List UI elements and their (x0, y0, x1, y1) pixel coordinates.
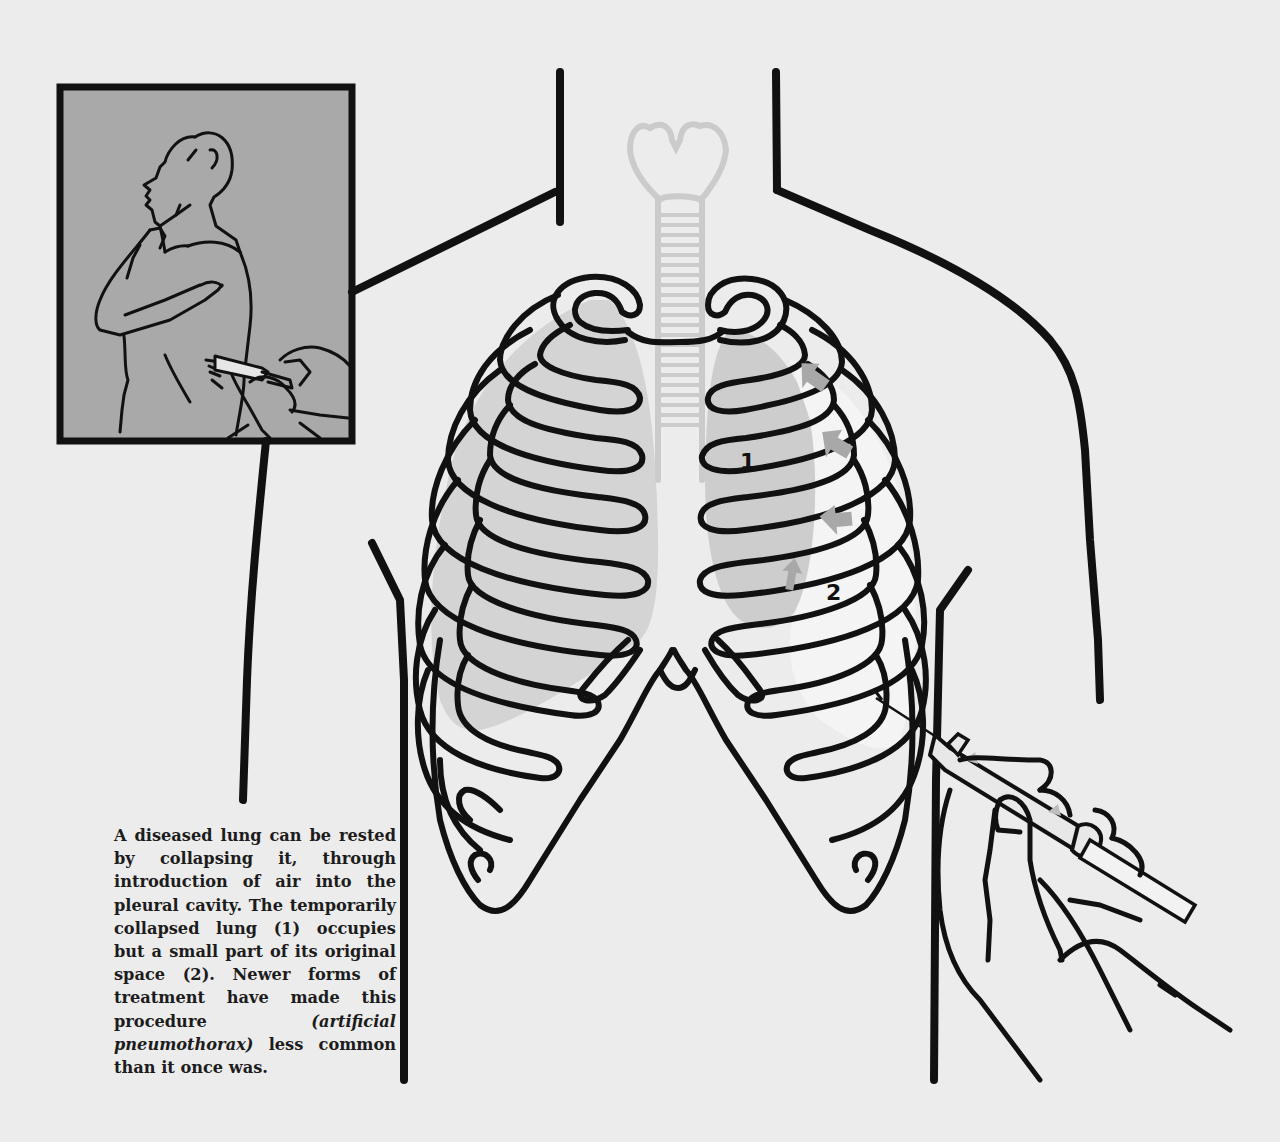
trachea-rings (660, 215, 700, 425)
label-original-space: 2 (826, 580, 841, 605)
label-collapsed-lung: 1 (740, 449, 755, 474)
caption-text-1: A diseased lung can be rested by collaps… (114, 826, 396, 1031)
figure: 1 2 A diseased lung can be rested by col… (0, 0, 1280, 1142)
inset-panel (60, 87, 352, 441)
caption: A diseased lung can be rested by collaps… (114, 824, 396, 1079)
